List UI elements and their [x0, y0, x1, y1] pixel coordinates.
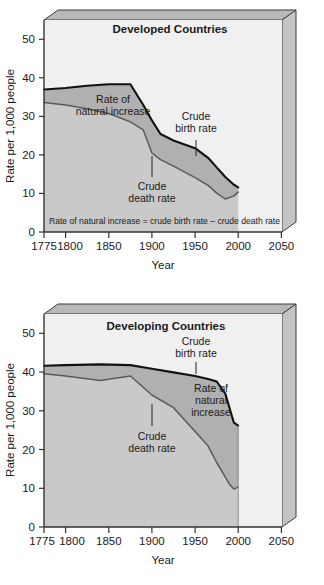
- x-tick-label-1900: 1900: [139, 240, 165, 252]
- natural-increase-label-line2: natural: [195, 394, 227, 406]
- x-tick-label-1950: 1950: [182, 240, 208, 252]
- natural-increase-label-line3: increase: [191, 406, 231, 418]
- crude-death-rate-label-line1: Crude: [138, 430, 167, 442]
- y-tick-label-50: 50: [22, 327, 35, 339]
- natural-increase-label-line2: natural increase: [76, 105, 151, 117]
- crude-death-rate-label-line2: death rate: [128, 192, 175, 204]
- crude-birth-rate-label-line1: Crude: [182, 335, 211, 347]
- y-axis-title: Rate per 1,000 people: [4, 363, 16, 477]
- x-tick-label-1800: 1800: [59, 535, 85, 547]
- y-tick-label-50: 50: [22, 33, 35, 45]
- x-tick-label-1850: 1850: [96, 240, 122, 252]
- footnote-formula: Rate of natural increase = crude birth r…: [49, 216, 280, 226]
- block-top-face: [44, 10, 296, 20]
- crude-birth-rate-label-line1: Crude: [182, 110, 211, 122]
- x-tick-marks: [44, 527, 281, 533]
- natural-increase-label-line1: Rate of: [96, 93, 130, 105]
- demographic-transition-figure: 0 10 20 30 40 50 1775 1800 1850 1900 195…: [0, 0, 324, 585]
- y-tick-label-10: 10: [22, 482, 35, 494]
- x-axis-title: Year: [151, 259, 174, 271]
- panel-title: Developed Countries: [112, 23, 227, 35]
- y-tick-label-0: 0: [29, 226, 35, 238]
- crude-birth-rate-label-line2: birth rate: [175, 122, 217, 134]
- block-top-face: [44, 304, 296, 314]
- y-tick-label-30: 30: [22, 405, 35, 417]
- x-axis-title: Year: [151, 554, 174, 566]
- y-tick-marks: [39, 39, 44, 232]
- y-tick-label-10: 10: [22, 187, 35, 199]
- chart-panel-developed: 0 10 20 30 40 50 1775 1800 1850 1900 195…: [0, 0, 324, 292]
- crude-death-rate-label-line1: Crude: [138, 180, 167, 192]
- crude-birth-rate-label-line2: birth rate: [175, 347, 217, 359]
- y-tick-label-40: 40: [22, 72, 35, 84]
- crude-death-rate-label-line2: death rate: [128, 442, 175, 454]
- block-side-face: [282, 10, 296, 232]
- natural-increase-label-line1: Rate of: [194, 382, 228, 394]
- x-tick-label-1850: 1850: [96, 535, 122, 547]
- x-tick-label-1900: 1900: [139, 535, 165, 547]
- x-tick-label-1800: 1800: [57, 240, 83, 252]
- x-tick-label-2050: 2050: [269, 240, 295, 252]
- x-tick-label-1775: 1775: [29, 535, 55, 547]
- chart-panel-developing: 0 10 20 30 40 50 1775 1800 1850 1900 195…: [0, 292, 324, 584]
- y-tick-label-20: 20: [22, 149, 35, 161]
- y-axis-title: Rate per 1,000 people: [4, 69, 16, 183]
- block-side-face: [282, 304, 296, 527]
- panel-title: Developing Countries: [107, 320, 226, 332]
- x-tick-marks: [44, 232, 281, 238]
- y-tick-marks: [39, 333, 44, 527]
- x-tick-label-2000: 2000: [225, 240, 251, 252]
- y-tick-label-30: 30: [22, 110, 35, 122]
- x-tick-label-1950: 1950: [182, 535, 208, 547]
- y-tick-label-0: 0: [29, 521, 35, 533]
- x-tick-label-1775: 1775: [31, 240, 57, 252]
- x-tick-label-2000: 2000: [225, 535, 251, 547]
- x-tick-label-2050: 2050: [269, 535, 295, 547]
- y-tick-label-40: 40: [22, 366, 35, 378]
- y-tick-label-20: 20: [22, 444, 35, 456]
